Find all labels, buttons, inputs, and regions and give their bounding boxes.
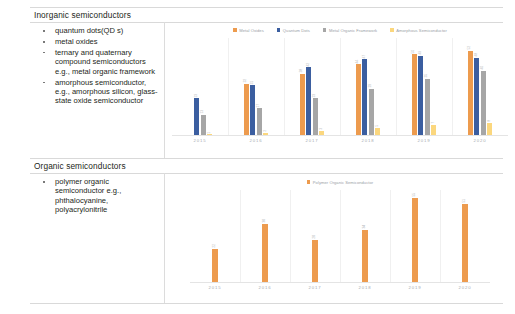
bar <box>362 230 369 283</box>
table-top-border <box>30 7 503 8</box>
bar-value-label: 5 <box>376 125 380 127</box>
group-separator <box>452 38 453 136</box>
bar-column: 2 <box>263 38 268 136</box>
bar-value-label: 32 <box>244 79 248 83</box>
bar-column: 32 <box>244 38 249 136</box>
bar-value-label: 52 <box>468 46 472 50</box>
bar-value-label: 48 <box>475 53 479 57</box>
bar-value-label: 23 <box>313 94 317 98</box>
table-bottom-border <box>30 303 503 304</box>
group-separator <box>396 38 397 136</box>
bar-value-label: 51 <box>463 199 467 203</box>
bar-column: 28 <box>312 190 319 283</box>
legend-swatch-icon <box>277 28 281 32</box>
bar-value-label: 38 <box>300 69 304 73</box>
group-separator <box>390 190 391 283</box>
list-item: ternary and quaternary compound semicond… <box>34 48 160 76</box>
bar-column: 48 <box>474 38 479 136</box>
bar-column: 31 <box>250 38 255 136</box>
bar <box>474 58 479 136</box>
legend-item: Metal Oxides <box>233 28 264 33</box>
bar-column: 7 <box>431 38 436 136</box>
bar <box>306 67 311 136</box>
bar <box>425 79 430 136</box>
bar-column: 47 <box>362 38 367 136</box>
bar <box>194 98 199 136</box>
group-separator <box>228 38 229 136</box>
bar-value-label: 23 <box>195 94 199 98</box>
list-item: amorphous semiconductor, e.g., amorphous… <box>34 78 160 106</box>
row1-section-title: Inorganic semiconductors <box>34 10 131 20</box>
x-axis-label: 2018 <box>340 285 390 290</box>
bar-value-label: 29 <box>369 84 373 88</box>
bar-group: 4447295 <box>340 38 396 136</box>
bar-value-label: 31 <box>251 81 255 85</box>
bar-column: 1 <box>207 38 212 136</box>
x-axis-label: 2018 <box>340 138 396 143</box>
bar-column: 8 <box>487 38 492 136</box>
x-axis-label: 2020 <box>440 285 490 290</box>
bar-group: 51 <box>440 190 490 283</box>
row2-title-divider <box>30 173 503 174</box>
bar-column: 44 <box>356 38 361 136</box>
bar-column: 23 <box>313 38 318 136</box>
bar-value-label: 17 <box>257 104 261 108</box>
bar <box>201 115 206 136</box>
bar-group: 3231172 <box>228 38 284 136</box>
chart1-plot-area: 2313132311723842233444729550493575248408 <box>172 38 508 136</box>
row1-bullet-list-cell: quantum dots(QD s) metal oxides ternary … <box>34 26 160 107</box>
bar <box>212 249 219 283</box>
bar-column: 22 <box>212 190 219 283</box>
group-separator <box>340 38 341 136</box>
bar <box>262 224 269 283</box>
bar-column: 55 <box>412 190 419 283</box>
x-axis-label: 2016 <box>228 138 284 143</box>
bar <box>300 74 305 136</box>
bar-group: 34 <box>340 190 390 283</box>
row1-column-divider <box>164 22 165 158</box>
legend-label: Polymer Organic Semiconductor <box>313 180 373 185</box>
inorganic-semiconductors-bar-chart: Metal OxidesQuantum DotsMetal Organic Fr… <box>172 24 508 156</box>
group-separator <box>340 190 341 283</box>
bar <box>244 84 249 136</box>
bar-value-label: 22 <box>213 244 217 248</box>
organic-semiconductors-bar-chart: Polymer Organic Semiconductor 2238283455… <box>190 176 490 302</box>
row2-bullets: polymer organic semiconductor e.g., phth… <box>34 177 160 215</box>
x-axis-label: 2015 <box>172 138 228 143</box>
bar <box>412 54 417 136</box>
group-separator <box>440 190 441 283</box>
bar-value-label: 8 <box>488 120 492 122</box>
bar <box>312 240 319 283</box>
bar-column: 51 <box>462 190 469 283</box>
bar-column: 40 <box>481 38 486 136</box>
list-item: quantum dots(QD s) <box>34 26 160 35</box>
row1-bullets: quantum dots(QD s) metal oxides ternary … <box>34 26 160 106</box>
chart1-legend: Metal OxidesQuantum DotsMetal Organic Fr… <box>172 24 508 36</box>
bar <box>356 64 361 136</box>
bar-group: 5248408 <box>452 38 508 136</box>
x-axis-label: 2017 <box>284 138 340 143</box>
legend-label: Metal Oxides <box>239 28 264 33</box>
legend-label: Metal Organic Framework <box>329 28 377 33</box>
row2-section-title: Organic semiconductors <box>34 161 126 171</box>
row2-column-divider <box>164 173 165 303</box>
bar-value-label: 1 <box>208 132 212 134</box>
bar-column: 52 <box>468 38 473 136</box>
bar-value-label: 55 <box>413 193 417 197</box>
legend-item: Quantum Dots <box>277 28 310 33</box>
bar-value-label: 28 <box>313 235 317 239</box>
bar-value-label: 34 <box>363 225 367 229</box>
bar <box>313 98 318 136</box>
bar <box>418 56 423 136</box>
bar <box>468 51 473 136</box>
bar-column: 13 <box>201 38 206 136</box>
x-axis-label: 2015 <box>190 285 240 290</box>
bar-column: 38 <box>300 38 305 136</box>
row1-title-divider <box>30 22 503 23</box>
group-separator <box>240 190 241 283</box>
row2-bullet-list-cell: polymer organic semiconductor e.g., phth… <box>34 177 160 216</box>
bar <box>481 71 486 136</box>
x-axis-label: 2017 <box>290 285 340 290</box>
chart2-bar-groups: 223828345551 <box>190 190 490 283</box>
bar-value-label: 47 <box>363 55 367 59</box>
